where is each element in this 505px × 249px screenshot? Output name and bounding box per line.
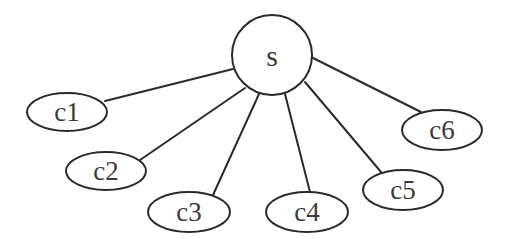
tree-diagram: s c1 c2 c3 c4 c5 c6 <box>0 0 505 249</box>
child-node-label: c5 <box>390 175 415 205</box>
root-node-s: s <box>232 15 312 95</box>
edge-s-c6 <box>311 57 421 112</box>
edge-s-c3 <box>213 94 259 195</box>
edge-s-c1 <box>105 69 233 101</box>
child-node-c6: c6 <box>402 110 482 150</box>
child-node-c5: c5 <box>363 170 443 210</box>
edge-s-c5 <box>305 82 381 172</box>
root-node-label: s <box>266 39 278 72</box>
child-node-c4: c4 <box>266 192 348 232</box>
child-node-label: c3 <box>176 197 201 227</box>
child-node-c2: c2 <box>66 152 146 190</box>
child-node-label: c2 <box>93 156 118 186</box>
child-node-c3: c3 <box>148 192 230 232</box>
edge-s-c4 <box>285 94 310 192</box>
child-node-c1: c1 <box>27 93 107 131</box>
edge-s-c2 <box>140 88 245 160</box>
child-node-label: c1 <box>54 97 79 127</box>
child-node-label: c6 <box>429 115 454 145</box>
child-node-label: c4 <box>294 197 320 227</box>
